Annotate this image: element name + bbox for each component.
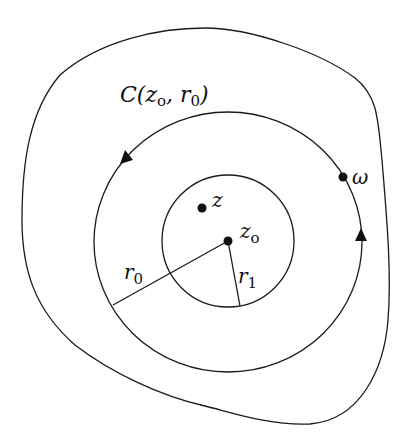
omega-label: ω (352, 165, 368, 189)
r1-label: r1 (238, 264, 257, 292)
point-center (224, 237, 233, 246)
arrowhead-right-icon (355, 228, 367, 241)
contour-label: C(zo, r0) (120, 82, 209, 110)
z-label: z (211, 188, 223, 212)
contour-diagram: C(zo, r0) z zo ω r0 r1 (0, 0, 410, 447)
center-label: zo (239, 219, 260, 247)
point-omega (339, 173, 348, 182)
r0-label: r0 (124, 260, 143, 288)
point-z (198, 204, 207, 213)
